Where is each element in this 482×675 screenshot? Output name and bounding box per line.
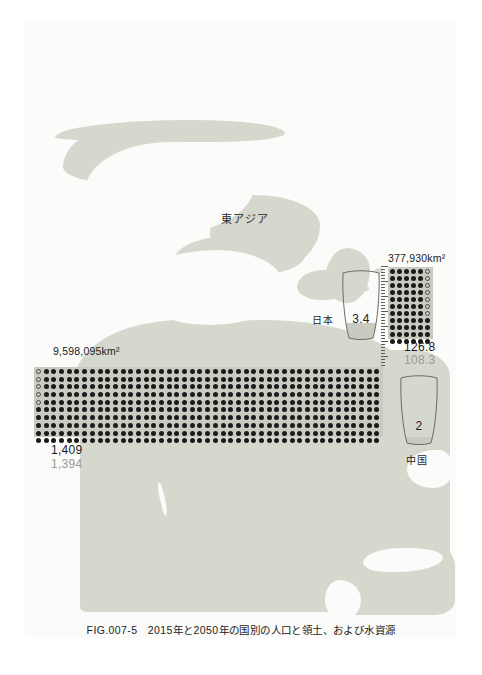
population-dot [259,415,264,420]
population-dot [213,431,218,436]
population-dot [59,423,64,428]
population-dot-hollow [425,290,430,295]
population-dot [182,392,187,397]
population-dot [418,332,423,337]
population-dot [105,431,110,436]
ruler-tick [381,344,385,345]
population-dot [121,377,126,382]
population-dot [390,325,395,330]
population-dot [290,369,295,374]
population-dot [74,377,79,382]
population-dot [197,384,202,389]
population-dot [190,438,195,443]
population-dot [297,377,302,382]
population-dot [144,415,149,420]
population-dot [404,283,409,288]
population-dot [51,407,56,412]
population-dot [274,407,279,412]
population-dot [351,415,356,420]
population-dot [105,423,110,428]
population-dot [44,392,49,397]
population-dot [282,392,287,397]
population-dot [251,384,256,389]
population-dot [151,369,156,374]
population-dot [197,407,202,412]
population-dot [228,423,233,428]
population-dot [418,318,423,323]
population-dot [121,431,126,436]
population-dot [313,400,318,405]
population-dot [367,369,372,374]
population-dot [113,407,118,412]
population-dot [236,369,241,374]
population-dot [144,377,149,382]
population-dot [136,438,141,443]
population-dot [90,415,95,420]
population-dot [205,407,210,412]
population-dot [404,311,409,316]
population-dot [228,438,233,443]
population-dot [213,384,218,389]
population-dot [397,297,402,302]
population-dot [67,431,72,436]
population-dot [251,392,256,397]
population-dot [167,377,172,382]
population-dot [374,438,379,443]
population-dot [397,283,402,288]
population-dot [297,369,302,374]
population-dot [351,369,356,374]
population-dot [397,269,402,274]
population-dot [205,415,210,420]
population-dot [367,384,372,389]
population-dot [151,438,156,443]
population-dot [404,290,409,295]
population-dot [51,384,56,389]
population-dot [267,423,272,428]
population-dot [328,384,333,389]
china-dot-grid [36,369,382,446]
inland-water-inlet-s [325,580,361,620]
population-dot-hollow [425,297,430,302]
population-dot [228,415,233,420]
population-dot [74,431,79,436]
population-dot [328,407,333,412]
ocean-gap-center [135,250,285,325]
population-dot [320,377,325,382]
population-dot [221,423,226,428]
population-dot [167,384,172,389]
population-dot [44,438,49,443]
japan-area-label: 377,930km² [388,252,445,264]
population-dot [418,283,423,288]
population-dot [236,407,241,412]
population-dot [90,407,95,412]
country-label-china: 中国 [406,452,428,467]
population-dot [259,423,264,428]
population-dot [259,377,264,382]
population-dot [82,415,87,420]
population-dot [44,377,49,382]
population-dot [397,304,402,309]
population-dot [59,407,64,412]
population-dot [128,438,133,443]
population-dot [174,384,179,389]
population-dot [344,384,349,389]
population-dot [144,369,149,374]
population-dot [359,392,364,397]
population-dot [320,384,325,389]
population-dot [344,369,349,374]
population-dot [251,423,256,428]
population-dot [328,438,333,443]
population-dot [182,415,187,420]
population-dot [297,431,302,436]
population-dot [313,392,318,397]
population-dot [221,431,226,436]
population-dot [397,276,402,281]
population-dot [374,415,379,420]
population-dot [305,423,310,428]
population-dot [205,431,210,436]
population-dot [390,311,395,316]
population-dot [159,407,164,412]
population-dot [136,392,141,397]
population-dot [328,377,333,382]
population-dot [213,423,218,428]
